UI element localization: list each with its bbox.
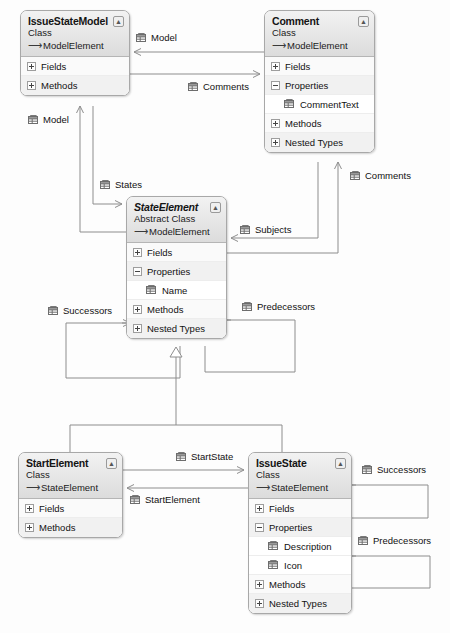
uml-class-base: ⟶ModelElement: [28, 39, 123, 52]
uml-class-box-issuestate[interactable]: IssueState Class ⟶StateElement ▲ FieldsP…: [248, 452, 352, 614]
uml-class-base: ⟶ModelElement: [272, 39, 368, 52]
edge-label-subjects[interactable]: Subjects: [240, 224, 291, 235]
property-icon: [358, 536, 369, 546]
uml-member-row[interactable]: Name: [127, 281, 226, 300]
property-icon: [188, 82, 199, 92]
uml-class-kind: Class: [272, 27, 368, 39]
property-icon: [176, 452, 187, 462]
edge-label-states[interactable]: States: [100, 179, 142, 190]
uml-class-name: StateElement: [134, 201, 220, 213]
edge-label-model-left[interactable]: Model: [28, 114, 69, 125]
edge-label-text: Subjects: [255, 224, 291, 235]
uml-section-methods[interactable]: Methods: [127, 300, 226, 319]
inherit-arrow-icon: ⟶: [28, 39, 42, 52]
edge-label-successors-mid[interactable]: Successors: [48, 305, 112, 316]
edge-label-comments-top[interactable]: Comments: [188, 81, 249, 92]
collapse-icon[interactable]: ▲: [113, 16, 124, 27]
uml-section-label: Nested Types: [147, 323, 205, 334]
plus-icon[interactable]: [255, 580, 264, 589]
uml-section-properties[interactable]: Properties: [127, 262, 226, 281]
uml-class-header[interactable]: StateElement Abstract Class ⟶ModelElemen…: [127, 197, 226, 243]
plus-icon[interactable]: [271, 138, 280, 147]
uml-class-header[interactable]: IssueState Class ⟶StateElement ▲: [249, 453, 351, 499]
collapse-icon[interactable]: ▲: [106, 458, 117, 469]
uml-section-properties[interactable]: Properties: [249, 518, 351, 537]
uml-section-nested-types[interactable]: Nested Types: [127, 319, 226, 338]
uml-class-base: ⟶StateElement: [256, 481, 345, 494]
plus-icon[interactable]: [133, 324, 142, 333]
property-icon: [146, 285, 157, 295]
uml-member-label: CommentText: [300, 99, 359, 110]
uml-section-label: Methods: [269, 579, 305, 590]
uml-section-methods[interactable]: Methods: [265, 114, 374, 133]
uml-section-label: Fields: [41, 61, 66, 72]
uml-section-methods[interactable]: Methods: [21, 76, 129, 95]
minus-icon[interactable]: [133, 267, 142, 276]
uml-section-fields[interactable]: Fields: [249, 499, 351, 518]
edge-label-startelement[interactable]: StartElement: [130, 494, 200, 505]
uml-class-box-issuestatemodel[interactable]: IssueStateModel Class ⟶ModelElement ▲ Fi…: [20, 10, 130, 96]
plus-icon[interactable]: [133, 248, 142, 257]
uml-section-properties[interactable]: Properties: [265, 76, 374, 95]
uml-member-row[interactable]: Icon: [249, 556, 351, 575]
edge-label-predecessors-rt[interactable]: Predecessors: [358, 535, 431, 546]
uml-section-fields[interactable]: Fields: [127, 243, 226, 262]
uml-section-nested-types[interactable]: Nested Types: [265, 133, 374, 152]
inherit-arrow-icon: ⟶: [272, 39, 286, 52]
edge-label-predecessors-mid[interactable]: Predecessors: [242, 301, 315, 312]
uml-class-box-startelement[interactable]: StartElement Class ⟶StateElement ▲ Field…: [18, 452, 123, 538]
uml-class-kind: Class: [256, 469, 345, 481]
property-icon: [242, 302, 253, 312]
collapse-icon[interactable]: ▲: [210, 202, 221, 213]
uml-class-header[interactable]: StartElement Class ⟶StateElement ▲: [19, 453, 122, 499]
property-icon: [268, 560, 279, 570]
collapse-icon[interactable]: ▲: [358, 16, 369, 27]
uml-member-row[interactable]: CommentText: [265, 95, 374, 114]
inherit-arrow-icon: ⟶: [26, 481, 40, 494]
uml-section-label: Properties: [147, 266, 190, 277]
plus-icon[interactable]: [255, 504, 264, 513]
property-icon: [362, 465, 373, 475]
plus-icon[interactable]: [25, 523, 34, 532]
property-icon: [136, 33, 147, 43]
uml-class-kind: Abstract Class: [134, 213, 220, 225]
edge-label-model-top[interactable]: Model: [136, 32, 177, 43]
uml-section-label: Fields: [285, 61, 310, 72]
uml-section-label: Methods: [285, 118, 321, 129]
uml-section-fields[interactable]: Fields: [21, 57, 129, 76]
uml-section-fields[interactable]: Fields: [265, 57, 374, 76]
edge-label-text: Model: [151, 32, 177, 43]
plus-icon[interactable]: [271, 62, 280, 71]
uml-diagram-canvas: IssueStateModel Class ⟶ModelElement ▲ Fi…: [0, 0, 450, 633]
edge-label-successors-rt[interactable]: Successors: [362, 464, 426, 475]
uml-class-body: FieldsMethods: [21, 57, 129, 95]
uml-section-methods[interactable]: Methods: [19, 518, 122, 537]
edge-label-startstate[interactable]: StartState: [176, 451, 233, 462]
plus-icon[interactable]: [25, 504, 34, 513]
uml-class-body: FieldsProperties CommentTextMethodsNeste…: [265, 57, 374, 152]
uml-member-label: Icon: [284, 560, 302, 571]
uml-section-methods[interactable]: Methods: [249, 575, 351, 594]
uml-section-nested-types[interactable]: Nested Types: [249, 594, 351, 613]
uml-member-label: Description: [284, 541, 332, 552]
uml-class-name: StartElement: [26, 457, 116, 469]
minus-icon[interactable]: [271, 81, 280, 90]
plus-icon[interactable]: [255, 599, 264, 608]
edge-label-text: Successors: [377, 464, 426, 475]
plus-icon[interactable]: [27, 81, 36, 90]
uml-class-box-comment[interactable]: Comment Class ⟶ModelElement ▲ FieldsProp…: [264, 10, 375, 153]
uml-class-name: IssueState: [256, 457, 345, 469]
collapse-icon[interactable]: ▲: [335, 458, 346, 469]
plus-icon[interactable]: [271, 119, 280, 128]
uml-class-header[interactable]: Comment Class ⟶ModelElement ▲: [265, 11, 374, 57]
uml-class-box-stateelement[interactable]: StateElement Abstract Class ⟶ModelElemen…: [126, 196, 227, 339]
uml-class-header[interactable]: IssueStateModel Class ⟶ModelElement ▲: [21, 11, 129, 57]
inherit-arrow-icon: ⟶: [134, 225, 148, 238]
edge-label-text: Comments: [203, 81, 249, 92]
plus-icon[interactable]: [133, 305, 142, 314]
plus-icon[interactable]: [27, 62, 36, 71]
edge-label-comments-right[interactable]: Comments: [350, 170, 411, 181]
uml-section-fields[interactable]: Fields: [19, 499, 122, 518]
minus-icon[interactable]: [255, 523, 264, 532]
uml-member-row[interactable]: Description: [249, 537, 351, 556]
